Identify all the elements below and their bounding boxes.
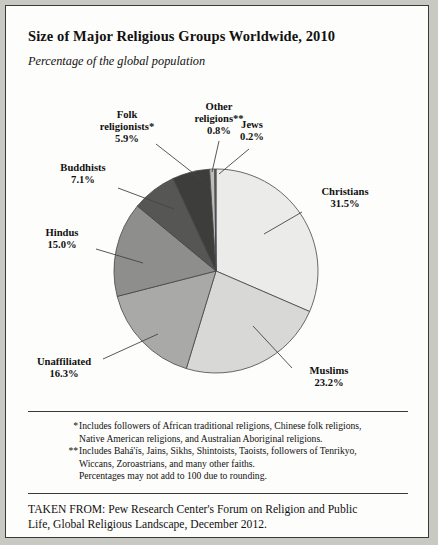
footnote-2: ** Includes Bahá'ís, Jains, Sikhs, Shint… [66, 445, 416, 470]
footnote-2-line2: Wiccans, Zoroastrians, and many other fa… [79, 458, 255, 469]
label-christians-name: Christians [321, 186, 368, 197]
label-muslims-pct: 23.2% [294, 377, 364, 389]
source-line2: Life, Global Religious Landscape, Decemb… [28, 518, 267, 531]
label-jews: Jews 0.2% [228, 119, 276, 143]
label-muslims: Muslims 23.2% [294, 365, 364, 389]
label-buddhists-pct: 7.1% [45, 174, 121, 186]
footnote-1-line1: Includes followers of African traditiona… [79, 420, 361, 431]
footnote-1: * Includes followers of African traditio… [66, 420, 416, 445]
divider-above-notes [28, 411, 408, 412]
pie-slice-group [114, 169, 318, 373]
footnote-2-marker: ** [66, 445, 78, 458]
label-jews-pct: 0.2% [228, 131, 276, 143]
label-buddhists-name: Buddhists [60, 162, 105, 173]
label-folk-name: Folk [117, 109, 138, 120]
leader-line-folk [156, 144, 202, 180]
label-hindus-name: Hindus [46, 227, 79, 238]
footnote-3: Percentages may not add to 100 due to ro… [66, 470, 416, 483]
divider-above-source [28, 493, 408, 494]
footnote-1-line2: Native American religions, and Australia… [79, 433, 323, 444]
label-unaffiliated-pct: 16.3% [20, 368, 108, 380]
label-christians: Christians 31.5% [306, 186, 384, 210]
source-line1: TAKEN FROM: Pew Research Center's Forum … [28, 503, 357, 516]
label-other-name: Other [205, 101, 232, 112]
label-muslims-name: Muslims [310, 365, 349, 376]
label-jews-name: Jews [241, 119, 263, 130]
label-christians-pct: 31.5% [306, 198, 384, 210]
label-folk-religionists: Folk religionists* 5.9% [79, 109, 175, 146]
footnotes: * Includes followers of African traditio… [66, 420, 416, 483]
figure-page: Size of Major Religious Groups Worldwide… [5, 5, 429, 538]
label-folk-pct: 5.9% [79, 133, 175, 145]
label-unaffiliated: Unaffiliated 16.3% [20, 356, 108, 380]
source-attribution: TAKEN FROM: Pew Research Center's Forum … [28, 502, 420, 532]
footnote-1-marker: * [66, 420, 78, 433]
footnote-2-line1: Includes Bahá'ís, Jains, Sikhs, Shintois… [79, 445, 357, 456]
label-buddhists: Buddhists 7.1% [45, 162, 121, 186]
leader-line-other [212, 141, 219, 172]
label-hindus-pct: 15.0% [30, 239, 94, 251]
label-unaffiliated-name: Unaffiliated [37, 356, 91, 367]
label-folk-name2: religionists* [100, 121, 155, 132]
label-hindus: Hindus 15.0% [30, 227, 94, 251]
